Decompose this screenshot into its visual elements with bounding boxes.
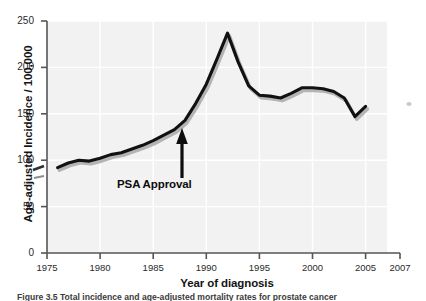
xtick-label-1995: 1995 bbox=[239, 262, 279, 273]
scan-mark-left bbox=[33, 166, 44, 170]
figure-chart-incidence: 250 200 150 100 50 0 1975 1980 1985 1990… bbox=[0, 0, 426, 301]
axis-ticks-y bbox=[41, 21, 47, 253]
y-axis-title: Age-adjusted Incidence / 100,000 bbox=[22, 9, 34, 259]
scan-mark-left-2 bbox=[34, 176, 44, 178]
x-axis-title: Year of diagnosis bbox=[0, 277, 426, 289]
xtick-label-2000: 2000 bbox=[293, 262, 333, 273]
xtick-label-1985: 1985 bbox=[133, 262, 173, 273]
chart-plot-area bbox=[0, 0, 426, 301]
scan-speck bbox=[406, 102, 411, 106]
xtick-label-1975: 1975 bbox=[27, 262, 67, 273]
xtick-label-2007: 2007 bbox=[380, 262, 420, 273]
x-axis-title-text: Year of diagnosis bbox=[180, 277, 274, 289]
figure-caption: Figure 3.5 Total incidence and age-adjus… bbox=[17, 292, 417, 301]
psa-approval-label: PSA Approval bbox=[117, 178, 192, 190]
xtick-label-1990: 1990 bbox=[186, 262, 226, 273]
axis-ticks-x bbox=[47, 253, 400, 259]
xtick-label-1980: 1980 bbox=[80, 262, 120, 273]
